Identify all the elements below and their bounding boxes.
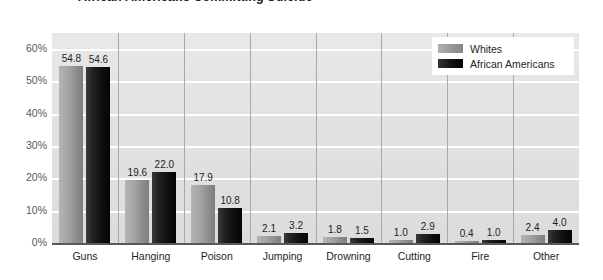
group-separator [118, 33, 119, 243]
page-title: African Americans Committing Suicide [78, 0, 312, 4]
bar-guns-aa [86, 67, 110, 243]
legend-swatch-whites [438, 44, 463, 53]
bar-value-label: 1.5 [345, 225, 379, 236]
bar-hanging-whites [125, 180, 149, 243]
legend-label-african-americans: African Americans [470, 58, 555, 70]
plot-area: Whites African Americans [52, 33, 579, 245]
bar-value-label: 17.9 [186, 172, 220, 183]
bar-value-label: 54.6 [81, 54, 115, 65]
bar-value-label: 22.0 [147, 159, 181, 170]
bar-value-label: 3.2 [279, 220, 313, 231]
bar-fire-aa [482, 240, 506, 243]
x-tick-label-jumping: Jumping [250, 250, 316, 262]
bar-hanging-aa [152, 172, 176, 243]
y-tick-label: 60% [7, 42, 47, 54]
chart-figure: African Americans Committing Suicide Per… [0, 0, 603, 280]
bar-jumping-aa [284, 233, 308, 243]
bar-other-aa [548, 230, 572, 243]
y-tick-label: 40% [7, 107, 47, 119]
y-tick-label: 20% [7, 171, 47, 183]
x-tick-label-guns: Guns [52, 250, 118, 262]
group-separator [250, 33, 251, 243]
chart-legend: Whites African Americans [432, 37, 574, 75]
group-separator [184, 33, 185, 243]
y-tick-label: 30% [7, 139, 47, 151]
y-tick-label: 0% [7, 236, 47, 248]
bar-poison-whites [191, 185, 215, 243]
x-tick-label-fire: Fire [447, 250, 513, 262]
x-tick-label-hanging: Hanging [118, 250, 184, 262]
y-tick-label: 10% [7, 204, 47, 216]
legend-swatch-african-americans [438, 59, 463, 68]
bar-cutting-whites [389, 240, 413, 243]
y-tick-label: 50% [7, 74, 47, 86]
legend-item-african-americans: African Americans [438, 56, 568, 71]
legend-item-whites: Whites [438, 41, 568, 56]
x-axis-baseline [52, 243, 579, 245]
bar-jumping-whites [257, 236, 281, 243]
x-tick-label-drowning: Drowning [316, 250, 382, 262]
bar-drowning-aa [350, 238, 374, 243]
x-tick-label-cutting: Cutting [381, 250, 447, 262]
bar-drowning-whites [323, 237, 347, 243]
bar-poison-aa [218, 208, 242, 243]
legend-label-whites: Whites [470, 43, 502, 55]
bar-value-label: 1.0 [477, 227, 511, 238]
group-separator [381, 33, 382, 243]
bar-guns-whites [59, 66, 83, 243]
x-tick-label-other: Other [513, 250, 579, 262]
bar-value-label: 10.8 [213, 195, 247, 206]
group-separator [316, 33, 317, 243]
bar-value-label: 4.0 [543, 217, 577, 228]
x-tick-label-poison: Poison [184, 250, 250, 262]
bar-fire-whites [455, 241, 479, 243]
chart-title-band: African Americans Committing Suicide [0, 0, 603, 7]
bar-value-label: 2.9 [411, 221, 445, 232]
bar-other-whites [521, 235, 545, 243]
bar-cutting-aa [416, 234, 440, 243]
